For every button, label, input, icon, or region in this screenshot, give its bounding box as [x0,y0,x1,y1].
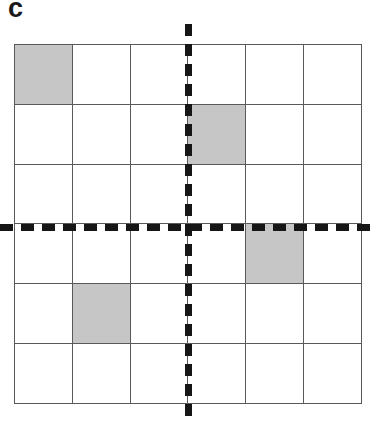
grid-cell [188,224,246,284]
grid-cell [131,105,189,165]
grid-cell [73,344,131,404]
grid-cell [131,284,189,344]
grid-cell [304,224,362,284]
grid-cell [304,165,362,225]
grid-cell [304,45,362,105]
grid-cell [15,165,73,225]
grid-cell [304,284,362,344]
grid-cell [15,344,73,404]
grid-cell [246,105,304,165]
grid-cell [15,284,73,344]
grid-cell [73,224,131,284]
grid-cell [304,344,362,404]
grid-cell [131,344,189,404]
grid-cell [246,165,304,225]
vertical-dashed-axis [185,24,192,422]
grid-cell [73,284,131,344]
grid-cell [15,45,73,105]
grid-cell [73,105,131,165]
grid-cell [131,224,189,284]
grid-cell [15,105,73,165]
grid-cell [131,165,189,225]
grid-cell [188,284,246,344]
grid-cell [73,45,131,105]
grid-cell [246,224,304,284]
grid-cell [188,344,246,404]
grid-cell [246,284,304,344]
grid-cell [73,165,131,225]
grid-cell [15,224,73,284]
grid-cell [246,45,304,105]
grid-cell [188,45,246,105]
grid-cell [188,105,246,165]
figure-panel: c [0,0,376,424]
panel-label: c [8,0,23,22]
horizontal-dashed-axis [0,224,376,231]
grid-cell [188,165,246,225]
grid-cell [131,45,189,105]
grid-cell [246,344,304,404]
grid-cell [304,105,362,165]
